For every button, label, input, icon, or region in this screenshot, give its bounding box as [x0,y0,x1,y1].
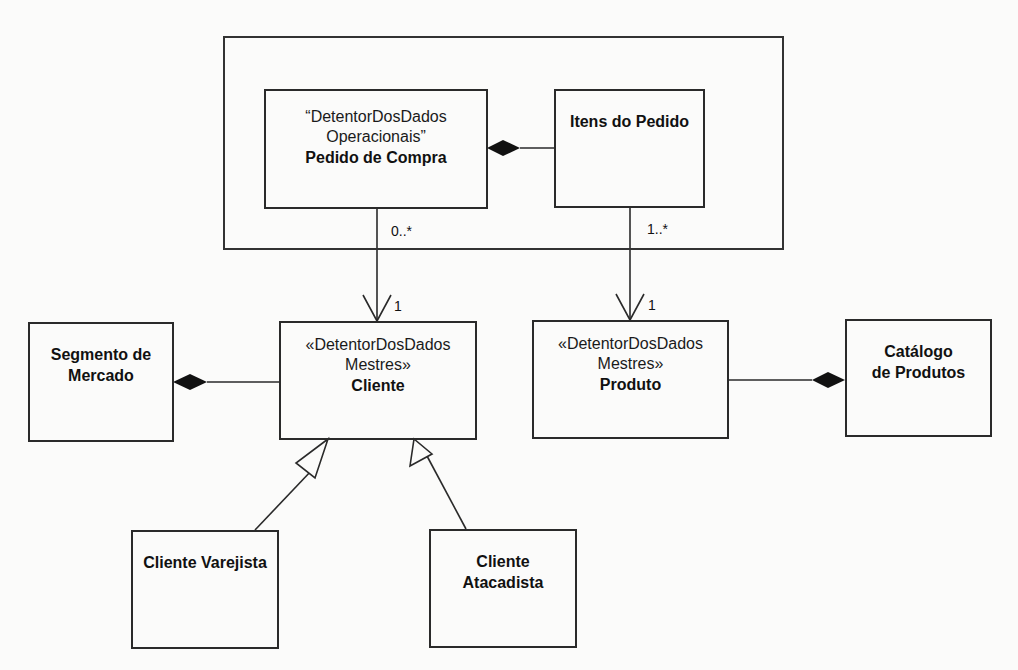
class-pedido-de-compra[interactable]: “DetentorDosDados Operacionais” Pedido d… [264,89,488,209]
stereotype-label: «DetentorDosDados [281,335,475,355]
multiplicity-pedido-source: 0..* [391,223,412,239]
composition-diamond-catalogo [812,372,845,388]
class-name: Atacadista [431,572,575,593]
stereotype-label: “DetentorDosDados [266,107,486,127]
class-name: Mercado [30,365,172,386]
class-name: Pedido de Compra [266,147,486,168]
multiplicity-cliente-target: 1 [394,298,402,314]
class-name: Segmento de [30,344,172,365]
class-catalogo-de-produtos[interactable]: Catálogo de Produtos [845,319,992,437]
class-name: Cliente [281,375,475,396]
stereotype-label: «DetentorDosDados [534,334,727,354]
class-name: Cliente Varejista [133,552,277,573]
class-name: Itens do Pedido [556,111,703,132]
class-cliente-varejista[interactable]: Cliente Varejista [131,530,279,649]
class-name: Produto [534,374,727,395]
class-produto[interactable]: «DetentorDosDados Mestres» Produto [532,320,729,439]
multiplicity-produto-target: 1 [648,297,656,313]
stereotype-label: Mestres» [281,355,475,375]
stereotype-label: Mestres» [534,354,727,374]
stereotype-label: Operacionais” [266,127,486,147]
class-name: de Produtos [847,362,990,383]
class-cliente-atacadista[interactable]: Cliente Atacadista [429,529,577,648]
class-cliente[interactable]: «DetentorDosDados Mestres» Cliente [279,321,477,440]
class-name: Cliente [431,551,575,572]
multiplicity-itens-source: 1..* [647,221,668,237]
class-name: Catálogo [847,341,990,362]
class-itens-do-pedido[interactable]: Itens do Pedido [554,89,705,208]
class-segmento-de-mercado[interactable]: Segmento de Mercado [28,322,174,442]
composition-diamond-segmento [173,374,207,390]
